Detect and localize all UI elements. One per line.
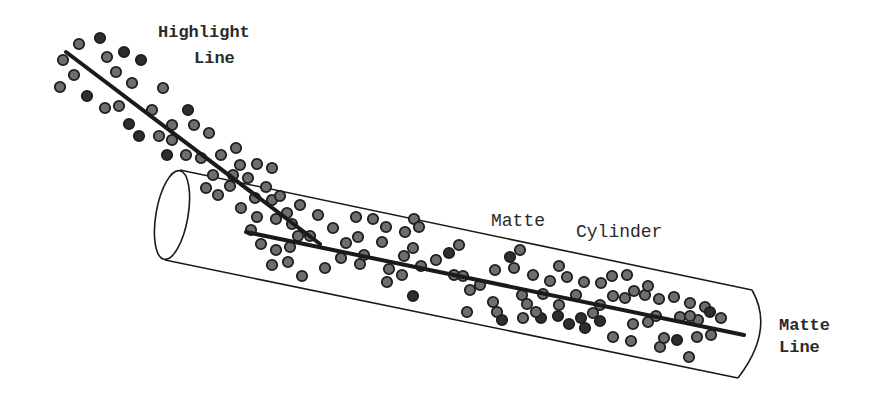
particle-dot — [465, 285, 475, 295]
particle-dot — [400, 227, 410, 237]
particle-dot — [341, 238, 351, 248]
matte-line-label-2: Line — [779, 337, 820, 359]
matte-cylinder-label-2: Cylinder — [576, 221, 662, 243]
particle-dot — [382, 277, 392, 287]
particle-dot — [252, 159, 262, 169]
particle-dot — [654, 294, 664, 304]
particle-dot — [545, 276, 555, 286]
particle-dot — [328, 223, 338, 233]
particle-dot — [576, 313, 586, 323]
particle-dot — [408, 291, 418, 301]
particle-dot — [353, 232, 363, 242]
particle-dot — [154, 131, 164, 141]
highlight-line-label-2: Line — [194, 48, 235, 70]
particle-dot — [672, 335, 682, 345]
particle-dot — [58, 55, 68, 65]
particle-dot — [629, 286, 639, 296]
particle-dot — [283, 257, 293, 267]
particle-dot — [716, 313, 726, 323]
particle-dot — [295, 200, 305, 210]
particle-dot — [368, 214, 378, 224]
particle-dot — [553, 311, 563, 321]
particle-dot — [595, 316, 605, 326]
particle-dot — [297, 271, 307, 281]
particle-dot — [531, 307, 541, 317]
particle-dot — [454, 240, 464, 250]
matte-cylinder-label-1: Matte — [491, 210, 545, 232]
particle-dot — [608, 332, 618, 342]
particle-dot — [381, 222, 391, 232]
particle-dot — [622, 270, 632, 280]
particle-dot — [399, 251, 409, 261]
particle-dot — [580, 323, 590, 333]
particle-dot — [522, 299, 532, 309]
particle-dot — [208, 170, 218, 180]
particle-dot — [509, 263, 519, 273]
particle-dot — [518, 313, 528, 323]
particle-dot — [408, 243, 418, 253]
particle-dot — [554, 300, 564, 310]
particle-dot — [74, 39, 84, 49]
particle-dot — [377, 237, 387, 247]
particle-dots — [55, 33, 726, 362]
particle-dot — [243, 173, 253, 183]
particle-dot — [554, 261, 564, 271]
particle-dot — [643, 281, 653, 291]
particle-dot — [158, 83, 168, 93]
particle-dot — [497, 315, 507, 325]
particle-dot — [231, 143, 241, 153]
particle-dot — [95, 33, 105, 43]
particle-dot — [256, 239, 266, 249]
particle-dot — [267, 260, 277, 270]
particle-dot — [620, 293, 630, 303]
particle-dot — [462, 307, 472, 317]
particle-dot — [684, 352, 694, 362]
particle-dot — [320, 263, 330, 273]
particle-dot — [414, 222, 424, 232]
particle-dot — [706, 330, 716, 340]
matte-line-label-1: Matte — [779, 315, 830, 337]
particle-dot — [608, 291, 618, 301]
particle-dot — [659, 333, 669, 343]
particle-dot — [626, 336, 636, 346]
particle-dot — [124, 119, 134, 129]
particle-dot — [114, 101, 124, 111]
particle-dot — [490, 265, 500, 275]
particle-dot — [236, 203, 246, 213]
particle-dot — [313, 210, 323, 220]
particle-dot — [669, 292, 679, 302]
particle-dot — [119, 47, 129, 57]
matte-cylinder-diagram — [0, 0, 891, 395]
particle-dot — [162, 150, 172, 160]
particle-dot — [136, 55, 146, 65]
particle-dot — [579, 277, 589, 287]
particle-dot — [515, 245, 525, 255]
particle-dot — [685, 298, 695, 308]
particle-dot — [102, 52, 112, 62]
particle-dot — [431, 255, 441, 265]
particle-dot — [267, 163, 277, 173]
particle-dot — [261, 182, 271, 192]
matte-line — [246, 232, 744, 335]
highlight-line — [66, 52, 320, 244]
particle-dot — [685, 311, 695, 321]
highlight-line-label-1: Highlight — [158, 22, 250, 44]
particle-dot — [183, 105, 193, 115]
particle-dot — [275, 191, 285, 201]
particle-dot — [100, 103, 110, 113]
particle-dot — [127, 78, 137, 88]
particle-dot — [528, 270, 538, 280]
particle-dot — [384, 264, 394, 274]
particle-dot — [607, 271, 617, 281]
particle-dot — [216, 150, 226, 160]
particle-dot — [213, 190, 223, 200]
particle-dot — [181, 150, 191, 160]
particle-dot — [252, 212, 262, 222]
particle-dot — [189, 120, 199, 130]
particle-dot — [201, 183, 211, 193]
particle-dot — [564, 319, 574, 329]
particle-dot — [82, 91, 92, 101]
particle-dot — [444, 248, 454, 258]
particle-dot — [134, 131, 144, 141]
particle-dot — [596, 278, 606, 288]
